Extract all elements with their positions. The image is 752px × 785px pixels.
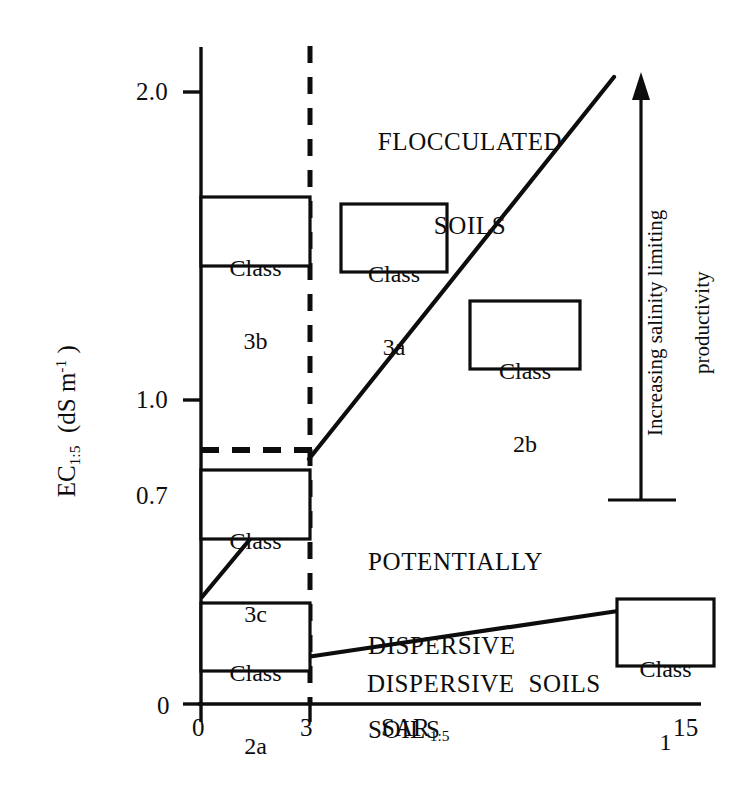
class-box-label-2b: Class 2b [470,310,580,506]
y-axis-title-main: EC [53,465,80,497]
class-box-label-3c-line1: Class [201,529,310,553]
y-axis-title-unit-close: ) [53,345,80,360]
productivity-arrow-label-line1: Increasing salinity limiting [644,173,668,473]
productivity-arrow-label: Increasing salinity limiting productivit… [620,173,738,473]
class-box-label-3b: Class 3b [201,207,310,403]
y-axis-title-unit-exponent: -1 [52,360,69,373]
class-box-label-3b-line2: 3b [201,329,310,353]
soil-classification-figure: 2.0 1.0 0.7 0 EC1:5 (dS m-1 ) 0 3 15 SAR… [0,0,752,785]
class-box-label-3a-line2: 3a [341,335,447,359]
class-box-label-3b-line1: Class [201,256,310,280]
region-label-potentially-line3: SOILS [368,716,543,744]
y-tick-label-0.7: 0.7 [136,482,168,510]
class-box-label-2b-line1: Class [470,359,580,383]
y-tick-label-2.0: 2.0 [136,78,168,106]
productivity-arrow-label-line2: productivity [691,173,715,473]
region-label-dispersive: DISPERSIVE SOILS [367,670,601,698]
class-box-label-2a: Class 2a [201,612,310,785]
region-label-potentially-dispersive: POTENTIALLY DISPERSIVE SOILS [368,492,543,785]
region-label-potentially-line2: DISPERSIVE [368,632,543,660]
y-tick-label-0: 0 [157,692,170,720]
y-axis-title-unit-open: (dS m [53,373,80,446]
class-box-label-2a-line2: 2a [201,734,310,758]
class-box-label-2b-line2: 2b [470,432,580,456]
class-box-label-3a-line1: Class [341,262,447,286]
region-label-potentially-line1: POTENTIALLY [368,548,543,576]
class-box-label-2a-line1: Class [201,661,310,685]
class-box-label-1-line2: 1 [617,730,714,754]
region-label-flocculated-line1: FLOCCULATED [330,128,610,156]
class-box-label-1: Class 1 [617,608,714,785]
class-box-label-1-line1: Class [617,657,714,681]
y-axis-title-subscript: 1:5 [66,446,83,466]
class-box-label-3a: Class 3a [341,213,447,409]
productivity-arrow-head [632,72,650,100]
y-axis-title: EC1:5 (dS m-1 ) [24,304,111,564]
y-tick-label-1.0: 1.0 [136,386,168,414]
